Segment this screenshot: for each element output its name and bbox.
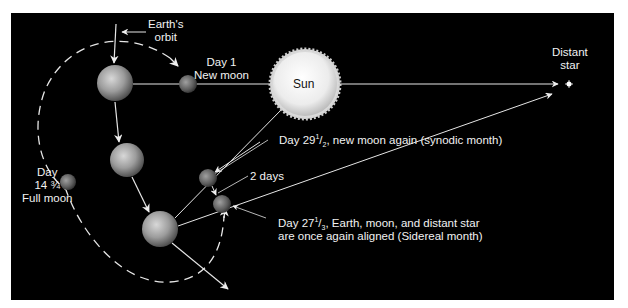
moon-day-29-new [199, 169, 217, 187]
moon-day-27-sidereal [213, 195, 231, 213]
earth-orbit-arrow-3 [132, 177, 149, 212]
day1-label-line2: New moon [194, 69, 249, 82]
earths-orbit-label-line1: Earth's [148, 18, 183, 31]
day27-label-pointer [233, 206, 266, 218]
sun-to-moon29-arrow [215, 142, 260, 172]
day1-label-line1: Day 1 [194, 56, 249, 69]
earths-orbit-label-line2: orbit [148, 31, 183, 44]
day27-frac-num: 1 [314, 216, 318, 223]
distant-star-label: Distant star [552, 46, 588, 72]
earth-position-3 [142, 211, 178, 247]
earths-orbit-label: Earth's orbit [148, 18, 183, 44]
earth-position-2 [110, 143, 144, 177]
day27-label-line1: Day 271/3, Earth, moon, and distant star [278, 217, 483, 230]
day27-suffix: , Earth, moon, and distant star [325, 217, 479, 229]
earth-position-1 [97, 65, 133, 101]
full-moon-label: Day 14 ¾ Full moon [22, 166, 73, 205]
earth-orbit-arrow-2 [115, 102, 119, 142]
day29-synodic-label: Day 291/2, new moon again (synodic month… [279, 134, 502, 147]
two-days-label: 2 days [250, 170, 284, 183]
day1-new-moon-label: Day 1 New moon [194, 56, 249, 82]
day29-frac-num: 1 [315, 133, 319, 140]
diagram-graphics [0, 0, 628, 308]
day27-label-line2: are once again aligned (Sidereal month) [278, 230, 483, 243]
diagram-stage: Earth's orbit Day 1 New moon Sun Distant… [0, 0, 628, 308]
orbit-direction-arrow-top [170, 58, 178, 66]
earth-orbit-arrow-4 [172, 243, 228, 289]
full-moon-label-line2: 14 ¾ [22, 179, 73, 192]
day29-prefix: Day 29 [279, 134, 315, 146]
day27-prefix: Day 27 [278, 217, 314, 229]
distant-star-label-line1: Distant [552, 46, 588, 59]
sun-label: Sun [293, 77, 314, 91]
full-moon-label-line3: Full moon [22, 192, 73, 205]
two-days-pointer [218, 176, 248, 193]
distant-star-icon [565, 80, 573, 88]
moon29-to-moon27-arrow [212, 186, 216, 195]
earth-orbit-arrow-1 [114, 24, 116, 63]
day29-suffix: , new moon again (synodic month) [326, 134, 502, 146]
full-moon-label-line1: Day [22, 166, 73, 179]
distant-star-label-line2: star [552, 59, 588, 72]
day27-sidereal-label: Day 271/3, Earth, moon, and distant star… [278, 217, 483, 243]
